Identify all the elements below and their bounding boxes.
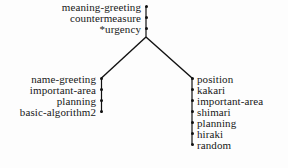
right-branch-line [146,37,192,78]
node-dot [100,88,103,91]
node-label-random: random [197,140,231,151]
node-label-basic-algorithm2: basic-algorithm2 [20,107,96,118]
node-dot [100,110,103,113]
node-dot [191,110,194,113]
node-label-urgency: *urgency [99,24,141,35]
tree-diagram: meaning-greeting countermeasure *urgency… [0,0,288,168]
node-dot [145,16,148,19]
node-dot [191,143,194,146]
node-dot [100,77,103,80]
node-dot [191,132,194,135]
left-branch-line [102,37,147,78]
node-dot [191,99,194,102]
node-dot [191,77,194,80]
node-dot [145,5,148,8]
node-dot [145,27,148,30]
node-dot [191,88,194,91]
node-dot [191,121,194,124]
node-dot [100,99,103,102]
